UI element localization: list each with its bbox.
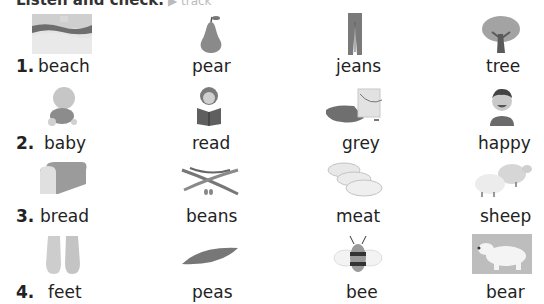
- exercise-title: Listen and check.▶ track: [16, 0, 212, 9]
- peapod-icon: [180, 244, 240, 272]
- beach-icon: [32, 14, 92, 58]
- word-meat[interactable]: meat: [336, 206, 380, 226]
- baby-icon: [44, 86, 80, 130]
- word-grey[interactable]: grey: [342, 133, 380, 153]
- reading-icon: [196, 86, 222, 130]
- row-number: 3.: [16, 206, 34, 226]
- instruction-text: Listen and check.: [16, 0, 164, 9]
- word-peas[interactable]: peas: [192, 282, 233, 302]
- word-tree[interactable]: tree: [486, 56, 520, 76]
- word-bee[interactable]: bee: [346, 282, 378, 302]
- polar-bear-icon: [472, 234, 532, 278]
- word-jeans[interactable]: jeans: [336, 56, 381, 76]
- word-baby[interactable]: baby: [44, 133, 86, 153]
- word-beans[interactable]: beans: [186, 206, 237, 226]
- bee-icon: [330, 234, 386, 280]
- sheep-icon: [472, 160, 534, 202]
- happy-boy-icon: [487, 86, 517, 130]
- word-beach[interactable]: beach: [38, 56, 90, 76]
- word-sheep[interactable]: sheep: [480, 206, 531, 226]
- feet-icon: [42, 236, 84, 280]
- meat-icon: [326, 160, 384, 202]
- word-bread[interactable]: bread: [40, 206, 89, 226]
- track-label: ▶ track: [168, 0, 212, 8]
- bread-icon: [38, 160, 88, 200]
- paint-bucket-icon: [324, 88, 386, 130]
- tree-icon: [480, 14, 522, 58]
- word-bear[interactable]: bear: [486, 282, 525, 302]
- row-number: 2.: [16, 133, 34, 153]
- row-number: 1.: [16, 56, 34, 76]
- word-feet[interactable]: feet: [48, 282, 82, 302]
- row-number: 4.: [16, 282, 34, 302]
- word-read[interactable]: read: [192, 133, 230, 153]
- beans-icon: [180, 166, 240, 200]
- word-happy[interactable]: happy: [478, 133, 531, 153]
- pear-icon: [196, 14, 226, 58]
- jeans-icon: [344, 12, 366, 60]
- word-pear[interactable]: pear: [192, 56, 231, 76]
